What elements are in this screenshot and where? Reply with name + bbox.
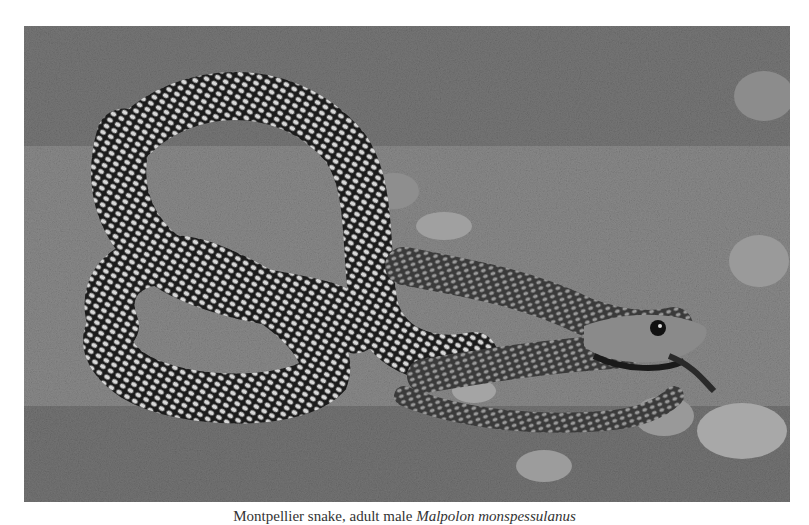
figure-caption: Montpellier snake, adult male Malpolon m… [0,508,809,525]
caption-prefix: Montpellier snake, adult male [233,508,412,524]
caption-scientific-name: Malpolon monspessulanus [416,508,576,524]
snake-photograph [24,26,790,502]
